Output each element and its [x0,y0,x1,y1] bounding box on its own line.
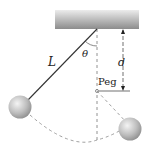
angle-arc [85,41,97,46]
length-label: L [47,55,56,69]
arrow-head-up [121,29,125,34]
angle-label: θ [82,48,88,59]
ceiling-block [55,10,139,29]
peg-to-ball-line [97,91,128,124]
pendulum-peg-diagram: L θ d Peg [0,0,149,147]
arrow-head-down [121,86,125,91]
peg-label: Peg [98,76,117,87]
pendulum-ball-right [119,118,142,141]
distance-label: d [118,56,125,69]
pendulum-ball-left [9,96,32,119]
swing-path [30,115,124,142]
pendulum-string [28,29,97,100]
